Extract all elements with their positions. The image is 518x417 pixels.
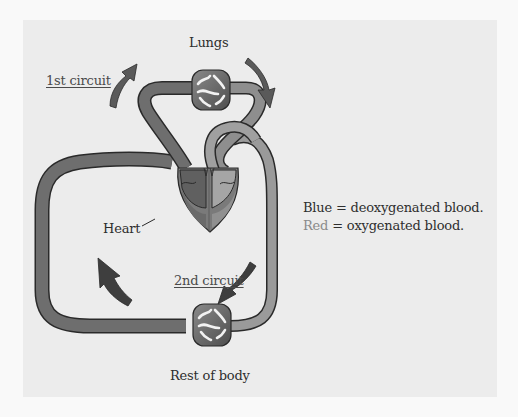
legend-row-red: Red = oxygenated blood. bbox=[303, 217, 483, 235]
legend-value-red: oxygenated blood. bbox=[347, 218, 464, 233]
color-legend: Blue = deoxygenated blood. Red = oxygena… bbox=[303, 199, 483, 235]
body-capillary-icon bbox=[193, 304, 231, 346]
legend-key-blue: Blue bbox=[303, 200, 332, 215]
lungs-capillary-icon bbox=[192, 70, 230, 110]
heart-graphic bbox=[178, 168, 239, 232]
heart-label: Heart bbox=[103, 222, 140, 235]
vessel-body-to-heart bbox=[42, 159, 186, 326]
first-circuit-label: 1st circuit bbox=[46, 74, 111, 87]
rest-of-body-label: Rest of body bbox=[170, 369, 250, 382]
lungs-label: Lungs bbox=[189, 36, 228, 49]
arrow-up-icon bbox=[110, 64, 137, 108]
legend-separator: = bbox=[332, 200, 351, 215]
legend-row-blue: Blue = deoxygenated blood. bbox=[303, 199, 483, 217]
legend-value-blue: deoxygenated blood. bbox=[351, 200, 484, 215]
second-circuit-label: 2nd circuit bbox=[174, 274, 244, 287]
heart-leader-line bbox=[142, 219, 155, 226]
diagram-stage: Lungs 1st circuit Heart 2nd circuit Rest… bbox=[0, 0, 518, 417]
arrow-up-left-icon bbox=[98, 258, 132, 306]
legend-separator: = bbox=[328, 218, 347, 233]
vessel-heart-to-body bbox=[230, 137, 272, 326]
legend-key-red: Red bbox=[303, 218, 328, 233]
